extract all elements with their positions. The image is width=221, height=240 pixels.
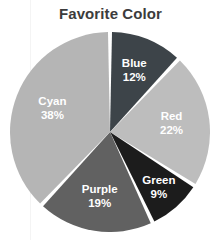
pie-slice-value-green: 9% bbox=[151, 188, 168, 200]
pie-chart-card: Favorite Color Blue12%Red22%Green9%Purpl… bbox=[0, 0, 221, 240]
pie-chart-plot-area: Blue12%Red22%Green9%Purple19%Cyan38% bbox=[10, 32, 210, 232]
page-title: Favorite Color bbox=[0, 5, 221, 22]
pie-chart-svg: Blue12%Red22%Green9%Purple19%Cyan38% bbox=[10, 32, 210, 232]
pie-slice-label-purple: Purple bbox=[82, 183, 118, 195]
pie-slice-value-blue: 12% bbox=[123, 71, 146, 83]
pie-slice-label-blue: Blue bbox=[122, 57, 147, 69]
pie-slice-label-red: Red bbox=[161, 110, 183, 122]
pie-slice-value-cyan: 38% bbox=[41, 109, 64, 121]
pie-slice-label-green: Green bbox=[142, 174, 175, 186]
pie-slice-value-purple: 19% bbox=[88, 197, 111, 209]
pie-slice-value-red: 22% bbox=[160, 124, 183, 136]
pie-slice-label-cyan: Cyan bbox=[38, 95, 66, 107]
